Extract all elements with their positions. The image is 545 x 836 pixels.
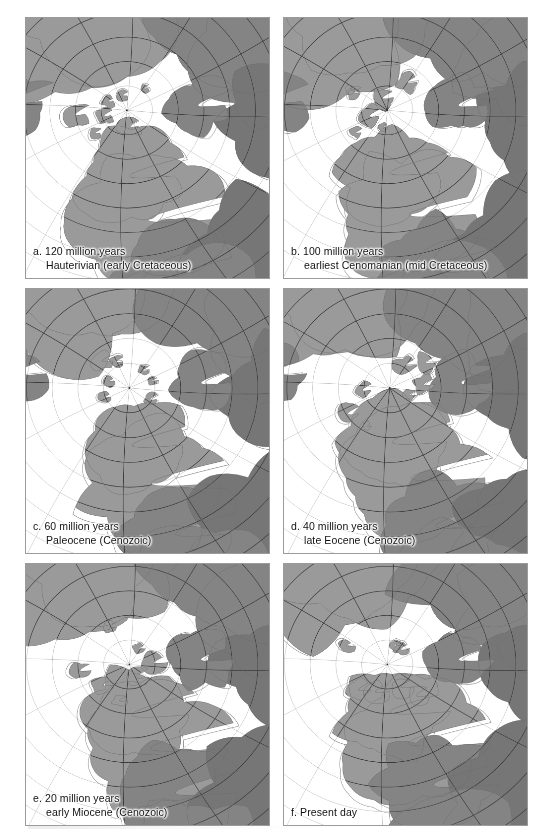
caption-age-line: a. 120 million years <box>33 245 191 258</box>
panel-caption: d. 40 million yearslate Eocene (Cenozoic… <box>291 520 415 547</box>
panel-caption: f. Present day <box>291 806 357 819</box>
map-panel-b: b. 100 million yearsearliest Cenomanian … <box>283 17 528 279</box>
caption-age-line: c. 60 million years <box>33 520 151 533</box>
caption-stage-line: late Eocene (Cenozoic) <box>291 534 415 547</box>
map-panel-a: a. 120 million yearsHauterivian (early C… <box>25 17 270 279</box>
map-projection-canvas <box>284 289 527 553</box>
map-panel-f: f. Present day <box>283 563 528 826</box>
caption-stage-line: Paleocene (Cenozoic) <box>33 534 151 547</box>
page-scan-artifact <box>28 826 358 829</box>
caption-stage-line: earliest Cenomanian (mid Cretaceous) <box>291 259 487 272</box>
map-panel-e: e. 20 million yearsearly Miocene (Cenozo… <box>25 563 270 826</box>
map-projection-canvas <box>284 564 527 825</box>
panel-caption: c. 60 million yearsPaleocene (Cenozoic) <box>33 520 151 547</box>
caption-age-line: b. 100 million years <box>291 245 487 258</box>
map-projection-canvas <box>26 564 269 825</box>
caption-stage-line: Hauterivian (early Cretaceous) <box>33 259 191 272</box>
map-projection-canvas <box>284 18 527 278</box>
panel-caption: e. 20 million yearsearly Miocene (Cenozo… <box>33 792 167 819</box>
caption-age-line: f. Present day <box>291 806 357 819</box>
caption-age-line: d. 40 million years <box>291 520 415 533</box>
paleogeographic-map-figure: a. 120 million yearsHauterivian (early C… <box>25 17 520 820</box>
map-panel-d: d. 40 million yearslate Eocene (Cenozoic… <box>283 288 528 554</box>
caption-age-line: e. 20 million years <box>33 792 167 805</box>
panel-caption: b. 100 million yearsearliest Cenomanian … <box>291 245 487 272</box>
map-projection-canvas <box>26 18 269 278</box>
map-projection-canvas <box>26 289 269 553</box>
caption-stage-line: early Miocene (Cenozoic) <box>33 806 167 819</box>
panel-caption: a. 120 million yearsHauterivian (early C… <box>33 245 191 272</box>
map-panel-c: c. 60 million yearsPaleocene (Cenozoic) <box>25 288 270 554</box>
